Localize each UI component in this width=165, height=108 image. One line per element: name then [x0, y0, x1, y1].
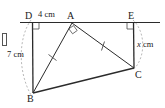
vertex-label-B: B: [27, 94, 34, 104]
dimension-unit-cm: cm: [141, 39, 154, 49]
vertex-label-D: D: [25, 11, 32, 21]
segment-CE: [134, 22, 135, 68]
segment-BC: [33, 68, 134, 93]
tick-mark-AB: [49, 55, 57, 61]
vertex-label-E: E: [128, 11, 134, 21]
vertex-label-A: A: [67, 11, 74, 21]
vertex-label-C: C: [135, 70, 142, 80]
right-angle-mark-E: [127, 23, 134, 29]
right-angle-mark-D: [33, 23, 40, 29]
geometry-figure: D A E B C 4 cm 7 cm x cm: [0, 0, 165, 108]
dimension-label-top-4cm: 4 cm: [38, 10, 55, 19]
segment-DB: [33, 22, 34, 93]
dimension-label-right-xcm: x cm: [137, 40, 153, 49]
dimension-label-left-7cm: 7 cm: [7, 50, 24, 59]
